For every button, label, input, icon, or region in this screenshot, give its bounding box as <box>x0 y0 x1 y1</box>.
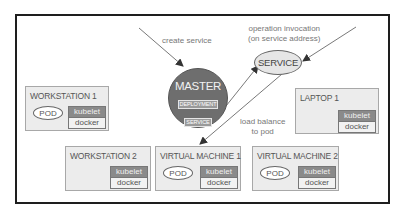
load-balance-label-line1: load balance <box>240 117 285 127</box>
pod[interactable]: POD <box>163 166 193 180</box>
node-workstation-1[interactable]: WORKSTATION 1 POD kubelet docker <box>25 86 109 131</box>
node-laptop-1[interactable]: LAPTOP 1 kubelet docker <box>295 88 379 134</box>
load-balance-label: load balance to pod <box>240 117 285 137</box>
kubelet-label: kubelet <box>299 167 335 178</box>
kubelet-label: kubelet <box>201 167 237 178</box>
invocation-label-line2: (on service address) <box>248 34 320 44</box>
master-node[interactable]: MASTER DEPLOYMENT SERVICE <box>168 68 228 128</box>
kubelet-label: kubelet <box>69 107 105 118</box>
node-title: VIRTUAL MACHINE 2 <box>257 151 338 161</box>
node-workstation-2[interactable]: WORKSTATION 2 kubelet docker <box>65 146 151 191</box>
node-stack: kubelet docker <box>338 110 376 133</box>
node-virtual-machine-1[interactable]: VIRTUAL MACHINE 1 POD kubelet docker <box>155 146 241 191</box>
kubelet-label: kubelet <box>111 167 147 178</box>
invocation-label-line1: operation invocation <box>248 24 320 34</box>
service-node[interactable]: SERVICE <box>254 50 302 75</box>
invocation-label: operation invocation (on service address… <box>248 24 320 44</box>
master-tag-service: SERVICE <box>184 118 211 127</box>
node-virtual-machine-2[interactable]: VIRTUAL MACHINE 2 POD kubelet docker <box>252 146 339 191</box>
node-stack: kubelet docker <box>68 106 106 129</box>
docker-label: docker <box>111 178 147 188</box>
node-title: VIRTUAL MACHINE 1 <box>160 151 241 161</box>
node-title: LAPTOP 1 <box>300 93 339 103</box>
docker-label: docker <box>69 118 105 128</box>
node-title: WORKSTATION 2 <box>70 151 137 161</box>
pod[interactable]: POD <box>260 166 290 180</box>
master-title: MASTER <box>169 80 227 92</box>
docker-label: docker <box>339 122 375 132</box>
node-stack: kubelet docker <box>110 166 148 189</box>
node-stack: kubelet docker <box>200 166 238 189</box>
kubelet-label: kubelet <box>339 111 375 122</box>
node-title: WORKSTATION 1 <box>30 91 97 101</box>
load-balance-label-line2: to pod <box>240 127 285 137</box>
docker-label: docker <box>299 178 335 188</box>
create-service-label: create service <box>162 36 212 46</box>
pod[interactable]: POD <box>33 106 63 120</box>
master-tag-deployment: DEPLOYMENT <box>178 100 219 109</box>
node-stack: kubelet docker <box>298 166 336 189</box>
docker-label: docker <box>201 178 237 188</box>
